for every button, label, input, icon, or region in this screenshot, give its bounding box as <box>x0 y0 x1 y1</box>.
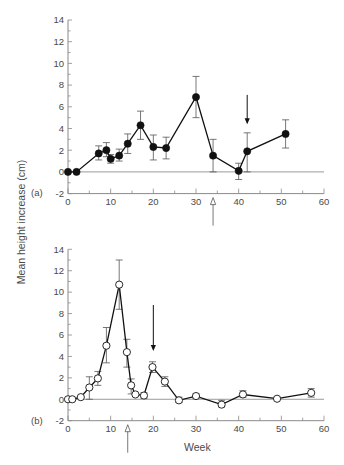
data-point-filled <box>73 168 80 175</box>
y-tick-label: 6 <box>59 101 64 112</box>
figure: Mean height increase (cm) Week (a) -2024… <box>0 0 344 465</box>
data-point-filled <box>235 167 242 174</box>
y-tick-label: 12 <box>53 36 64 47</box>
data-point-filled <box>124 140 131 147</box>
data-point-open <box>94 375 101 382</box>
x-tick-label: 60 <box>319 196 330 207</box>
x-tick-label: 40 <box>233 196 244 207</box>
data-point-open <box>123 349 130 356</box>
data-point-open <box>161 378 168 385</box>
data-point-filled <box>163 144 170 151</box>
data-point-filled <box>103 147 110 154</box>
data-point-filled <box>64 168 71 175</box>
panel-b: (b) -2024681012140102030405060 <box>31 244 329 453</box>
arrowhead-icon <box>245 118 250 124</box>
y-tick-label: 8 <box>59 79 64 90</box>
x-tick-label: 50 <box>276 423 287 434</box>
y-tick-label: 2 <box>59 372 64 383</box>
y-tick-label: 10 <box>53 286 64 297</box>
x-tick-label: 30 <box>191 423 202 434</box>
y-tick-label: 0 <box>59 166 64 177</box>
x-tick-label: 10 <box>105 196 116 207</box>
y-tick-label: 2 <box>59 145 64 156</box>
y-tick-label: 10 <box>53 58 64 69</box>
y-tick-label: 0 <box>59 394 64 405</box>
y-tick-label: -2 <box>56 415 64 426</box>
y-axis-title: Mean height increase (cm) <box>15 160 27 284</box>
data-point-open <box>192 392 199 399</box>
data-point-open <box>239 391 246 398</box>
data-point-open <box>175 397 182 404</box>
y-tick-label: 4 <box>59 351 64 362</box>
data-point-open <box>116 281 123 288</box>
data-point-open <box>69 396 76 403</box>
data-point-open <box>128 382 135 389</box>
x-tick-label: 20 <box>148 196 159 207</box>
y-tick-label: 14 <box>53 14 64 25</box>
data-point-filled <box>137 122 144 129</box>
data-point-filled <box>116 152 123 159</box>
data-point-filled <box>244 148 251 155</box>
data-point-open <box>218 401 225 408</box>
x-tick-label: 0 <box>65 423 70 434</box>
data-point-open <box>273 395 280 402</box>
x-axis-title: Week <box>184 441 211 453</box>
data-point-open <box>77 394 84 401</box>
y-tick-label: 14 <box>53 244 64 255</box>
x-tick-label: 30 <box>191 196 202 207</box>
panel-a-label: (a) <box>31 187 43 198</box>
data-point-filled <box>192 93 199 100</box>
data-point-open <box>140 392 147 399</box>
x-tick-label: 50 <box>276 196 287 207</box>
x-tick-label: 10 <box>105 423 116 434</box>
data-point-open <box>103 342 110 349</box>
open-arrowhead-icon <box>125 425 130 432</box>
y-tick-label: -2 <box>56 188 64 199</box>
open-arrowhead-icon <box>210 198 215 205</box>
series-line <box>68 97 286 172</box>
x-tick-label: 60 <box>319 423 330 434</box>
x-tick-label: 0 <box>65 196 70 207</box>
y-tick-label: 12 <box>53 265 64 276</box>
data-point-filled <box>209 152 216 159</box>
data-point-open <box>86 384 93 391</box>
data-point-filled <box>150 143 157 150</box>
y-tick-label: 8 <box>59 308 64 319</box>
panel-a: (a) -2024681012140102030405060 <box>31 14 329 225</box>
arrowhead-icon <box>151 345 156 351</box>
data-point-open <box>132 391 139 398</box>
data-point-filled <box>107 155 114 162</box>
x-tick-label: 20 <box>148 423 159 434</box>
data-point-filled <box>95 150 102 157</box>
y-tick-label: 6 <box>59 329 64 340</box>
data-point-open <box>308 389 315 396</box>
x-tick-label: 40 <box>233 423 244 434</box>
data-point-filled <box>282 130 289 137</box>
data-point-open <box>149 364 156 371</box>
panel-b-label: (b) <box>31 415 43 426</box>
y-tick-label: 4 <box>59 123 64 134</box>
